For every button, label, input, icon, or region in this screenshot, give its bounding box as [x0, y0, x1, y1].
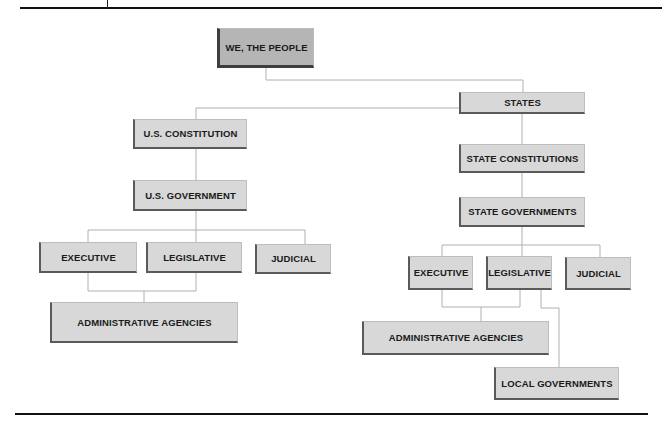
node-federal-executive: EXECUTIVE [39, 242, 137, 273]
node-state-administrative-agencies: ADMINISTRATIVE AGENCIES [362, 321, 549, 355]
node-state-legislative: LEGISLATIVE [486, 256, 552, 290]
node-us-constitution: U.S. CONSTITUTION [133, 119, 247, 149]
node-state-judicial: JUDICIAL [565, 257, 631, 290]
node-we-the-people: WE, THE PEOPLE [217, 28, 314, 68]
node-state-executive: EXECUTIVE [408, 256, 473, 290]
node-federal-legislative: LEGISLATIVE [146, 242, 242, 273]
node-federal-administrative-agencies: ADMINISTRATIVE AGENCIES [50, 302, 238, 343]
node-state-constitutions: STATE CONSTITUTIONS [459, 144, 585, 173]
node-states: STATES [459, 92, 585, 114]
node-local-governments: LOCAL GOVERNMENTS [494, 367, 619, 400]
node-state-governments: STATE GOVERNMENTS [459, 197, 585, 227]
node-federal-judicial: JUDICIAL [255, 244, 331, 274]
node-us-government: U.S. GOVERNMENT [133, 180, 247, 211]
